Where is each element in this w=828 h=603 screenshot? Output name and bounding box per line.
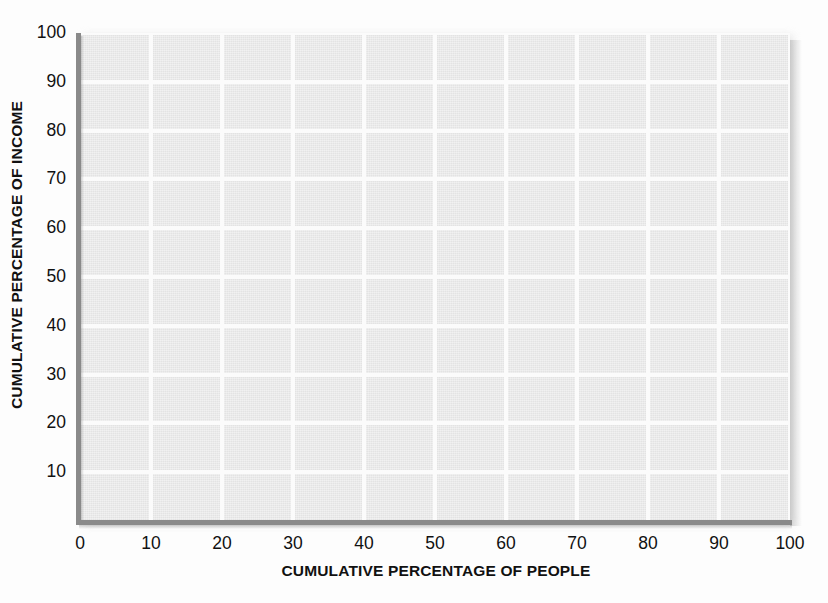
gridline-horizontal <box>80 275 790 279</box>
y-tick-label: 40 <box>8 315 66 336</box>
x-axis-title: CUMULATIVE PERCENTAGE OF PEOPLE <box>82 562 790 580</box>
x-tick-label: 30 <box>263 533 323 554</box>
gridline-horizontal <box>80 421 790 425</box>
gridline-horizontal <box>80 324 790 328</box>
x-tick-label: 0 <box>50 533 110 554</box>
y-tick-label: 60 <box>8 217 66 238</box>
x-tick-label: 80 <box>618 533 678 554</box>
y-tick-label: 90 <box>8 71 66 92</box>
gridline-horizontal <box>80 177 790 181</box>
gridline-horizontal <box>80 470 790 474</box>
y-tick-label: 80 <box>8 120 66 141</box>
gridline-horizontal <box>80 80 790 84</box>
y-tick-label: 70 <box>8 168 66 189</box>
plot-right-edge-shadow <box>790 40 802 526</box>
x-tick-label: 40 <box>334 533 394 554</box>
y-tick-label: 100 <box>8 22 66 43</box>
x-tick-label: 70 <box>547 533 607 554</box>
y-tick-label: 20 <box>8 412 66 433</box>
gridline-horizontal <box>80 226 790 230</box>
y-tick-label: 30 <box>8 364 66 385</box>
lorenz-curve-chart: CUMULATIVE PERCENTAGE OF INCOME 10090807… <box>0 0 828 603</box>
x-tick-label: 10 <box>121 533 181 554</box>
x-axis-line <box>76 520 792 525</box>
y-axis-line <box>76 33 81 525</box>
x-tick-label: 50 <box>405 533 465 554</box>
gridline-horizontal <box>80 129 790 133</box>
gridline-horizontal <box>80 33 790 35</box>
plot-area <box>80 33 790 521</box>
x-tick-label: 100 <box>760 533 820 554</box>
x-tick-label: 90 <box>689 533 749 554</box>
x-tick-label: 60 <box>476 533 536 554</box>
y-tick-label: 50 <box>8 266 66 287</box>
gridline-horizontal <box>80 373 790 377</box>
x-tick-label: 20 <box>192 533 252 554</box>
y-tick-label: 10 <box>8 461 66 482</box>
